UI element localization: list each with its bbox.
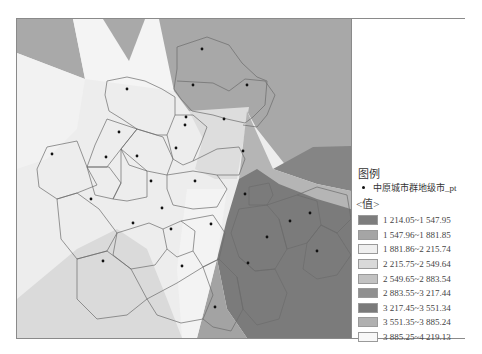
- legend-class-label: 2 215.75~2 549.64: [383, 259, 451, 269]
- legend-class-label: 3 885.25~4 219.13: [383, 332, 451, 342]
- legend-field-label: <值>: [356, 195, 379, 211]
- legend-class: 3 217.45~3 551.34: [358, 301, 451, 316]
- legend-swatch: [358, 303, 378, 313]
- legend-class-label: 3 217.45~3 551.34: [383, 303, 451, 313]
- legend-title: 图例: [358, 165, 380, 181]
- point-marker-icon: [362, 186, 365, 189]
- map-canvas[interactable]: [17, 19, 351, 338]
- legend-class-label: 2 549.65~2 883.54: [383, 274, 451, 284]
- legend-point-layer: 中原城市群地级市_pt: [358, 181, 457, 194]
- legend-class-label: 3 551.35~3 885.24: [383, 317, 451, 327]
- legend-class: 2 883.55~3 217.44: [358, 286, 451, 301]
- legend-swatch: [358, 274, 378, 284]
- legend-swatch: [358, 244, 378, 254]
- map-frame: 图例 中原城市群地级市_pt <值> 1 214.05~1 547.95 1 5…: [16, 18, 465, 339]
- legend-swatch: [358, 259, 378, 269]
- legend-class-list: 1 214.05~1 547.95 1 547.96~1 881.85 1 88…: [358, 213, 451, 344]
- legend-class: 2 215.75~2 549.64: [358, 257, 451, 272]
- legend-swatch: [358, 230, 378, 240]
- legend-class: 2 549.65~2 883.54: [358, 271, 451, 286]
- legend-class-label: 1 547.96~1 881.85: [383, 230, 451, 240]
- legend-class: 3 885.25~4 219.13: [358, 330, 451, 345]
- legend-panel: 图例 中原城市群地级市_pt <值> 1 214.05~1 547.95 1 5…: [351, 19, 465, 338]
- legend-class-label: 1 214.05~1 547.95: [383, 215, 451, 225]
- legend-class: 1 214.05~1 547.95: [358, 213, 451, 228]
- legend-swatch: [358, 332, 378, 342]
- legend-class-label: 2 883.55~3 217.44: [383, 288, 451, 298]
- legend-swatch: [358, 215, 378, 225]
- legend-class: 3 551.35~3 885.24: [358, 315, 451, 330]
- legend-swatch: [358, 317, 378, 327]
- legend-class: 1 547.96~1 881.85: [358, 228, 451, 243]
- legend-swatch: [358, 288, 378, 298]
- legend-point-layer-label: 中原城市群地级市_pt: [373, 183, 457, 193]
- legend-class: 1 881.86~2 215.74: [358, 242, 451, 257]
- interpolation-surface: [17, 19, 351, 338]
- legend-class-label: 1 881.86~2 215.74: [383, 244, 451, 254]
